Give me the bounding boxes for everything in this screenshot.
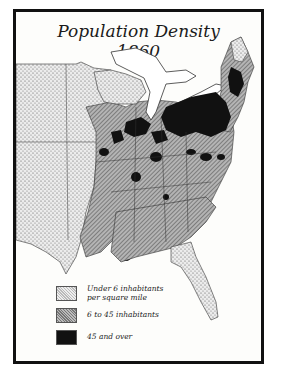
mid-density-swatch xyxy=(56,308,77,323)
region-florida xyxy=(171,242,218,320)
legend-label-low-1: Under 6 inhabitants xyxy=(87,284,163,293)
map-frame: Population Density 1860 xyxy=(13,9,264,364)
legend-label-high: 45 and over xyxy=(87,332,132,341)
low-density-swatch xyxy=(56,286,77,301)
high-density-swatch xyxy=(56,330,77,345)
population-density-map xyxy=(16,12,261,361)
legend-label-mid: 6 to 45 inhabitants xyxy=(87,310,159,319)
legend-label-low-2: per square mile xyxy=(87,293,163,302)
